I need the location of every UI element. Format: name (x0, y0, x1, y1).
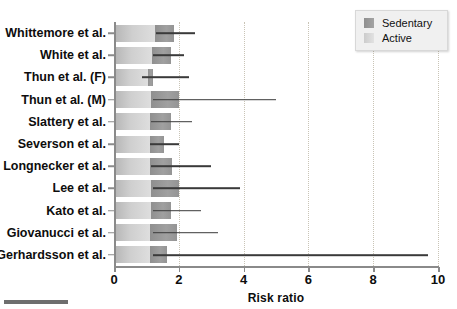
x-tick-label-4: 4 (224, 272, 264, 287)
y-axis-label: Whittemore et al. (5, 26, 106, 40)
chart-row: Longnecker et al. (114, 158, 438, 175)
y-axis-label: Severson et al. (18, 137, 106, 151)
legend-item-sedentary: Sedentary (361, 15, 442, 30)
chart-row: Gerhardsson et al. (114, 246, 438, 263)
y-axis-label: Giovanucci et al. (7, 226, 106, 240)
y-axis-label: Slattery et al. (28, 115, 106, 129)
confidence-interval-line (150, 143, 179, 145)
bar-active (114, 47, 152, 64)
confidence-interval-line (153, 210, 202, 212)
bar-active (114, 180, 151, 197)
bar-active (114, 246, 150, 263)
x-axis-title: Risk ratio (114, 291, 438, 305)
legend-label-active: Active (382, 32, 412, 44)
x-tick-label-6: 6 (288, 272, 328, 287)
plot-area: Whittemore et al.White et al.Thun et al.… (114, 22, 438, 266)
bar-active (114, 113, 150, 130)
x-tick-label-2: 2 (159, 272, 199, 287)
confidence-interval-line (153, 99, 276, 101)
chart-row: Thun et al. (F) (114, 69, 438, 86)
page-edge-artifact (4, 300, 68, 304)
x-tick-label-8: 8 (353, 272, 393, 287)
confidence-interval-line (153, 232, 218, 234)
chart-row: Thun et al. (M) (114, 91, 438, 108)
chart-legend: Sedentary Active (355, 10, 448, 51)
confidence-interval-line (153, 254, 428, 256)
y-axis-line (114, 22, 116, 267)
y-axis-label: White et al. (40, 48, 106, 62)
bar-active (114, 202, 151, 219)
x-tick-label-0: 0 (94, 272, 134, 287)
legend-swatch-sedentary-icon (364, 18, 374, 28)
chart-row: Lee et al. (114, 180, 438, 197)
chart-row: Kato et al. (114, 202, 438, 219)
gridline-x-10 (438, 22, 440, 266)
confidence-interval-line (151, 121, 192, 123)
y-axis-label: Thun et al. (M) (21, 93, 106, 107)
x-axis-line (114, 266, 439, 268)
confidence-interval-line (142, 77, 189, 79)
bar-active (114, 91, 151, 108)
confidence-interval-line (153, 188, 240, 190)
bar-active (114, 136, 150, 153)
y-axis-label: Kato et al. (46, 204, 106, 218)
bar-active (114, 158, 150, 175)
legend-swatch-active-icon (364, 33, 374, 43)
y-axis-label: Longnecker et al. (3, 159, 106, 173)
y-axis-label: Thun et al. (F) (24, 70, 106, 84)
confidence-interval-line (156, 32, 195, 34)
x-tick-label-10: 10 (418, 272, 457, 287)
risk-ratio-forest-chart: Whittemore et al.White et al.Thun et al.… (0, 0, 457, 309)
bar-active (114, 25, 155, 42)
chart-row: Severson et al. (114, 136, 438, 153)
confidence-interval-line (153, 54, 184, 56)
legend-label-sedentary: Sedentary (382, 17, 432, 29)
y-axis-label: Gerhardsson et al. (0, 248, 106, 262)
legend-item-active: Active (361, 30, 442, 45)
y-axis-label: Lee et al. (53, 181, 107, 195)
confidence-interval-line (151, 165, 211, 167)
chart-row: Slattery et al. (114, 113, 438, 130)
bar-active (114, 224, 150, 241)
chart-row: Giovanucci et al. (114, 224, 438, 241)
